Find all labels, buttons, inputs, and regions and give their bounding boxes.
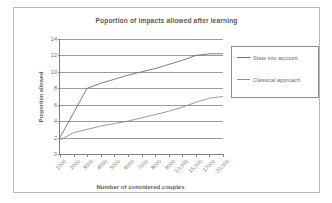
x-tick-label: 1000 [55, 158, 68, 171]
x-tick-mark [196, 154, 197, 157]
x-tick-mark [169, 154, 170, 157]
y-axis-title: Proportion allowed [36, 39, 46, 154]
y-tick-label: 8 [54, 85, 57, 91]
x-tick-label: 8000 [150, 158, 163, 171]
x-tick-label: 10,000 [174, 158, 190, 174]
y-axis-title-label: Proportion allowed [38, 71, 44, 122]
y-tick-label: 10 [51, 69, 57, 75]
series-line-0 [60, 54, 223, 138]
x-tick-label: 3000 [82, 158, 95, 171]
x-tick-mark [142, 154, 143, 157]
legend-label-1: Classical approach [253, 76, 300, 84]
x-tick-mark [155, 154, 156, 157]
x-axis-title: Number of considered couples [59, 184, 222, 190]
plot-area: 02468101214 1000200030004000500060007000… [59, 39, 223, 155]
legend-entry-state-into-account[interactable]: State into account [237, 54, 298, 62]
x-tick-mark [223, 154, 224, 157]
x-tick-label: 7000 [136, 158, 149, 171]
chart-frame: Poportion of impacts allowed after learn… [13, 7, 320, 193]
x-tick-mark [128, 154, 129, 157]
x-tick-mark [209, 154, 210, 157]
x-tick-mark [101, 154, 102, 157]
y-tick-label: 2 [54, 135, 57, 141]
legend-label-0: State into account [253, 54, 298, 62]
chart-title: Poportion of impacts allowed after learn… [14, 17, 319, 24]
x-tick-label: 15,000 [187, 158, 203, 174]
legend-entry-classical-approach[interactable]: Classical approach [237, 76, 300, 84]
y-tick-label: 12 [51, 52, 57, 58]
x-tick-mark [114, 154, 115, 157]
legend-line-icon-0 [237, 57, 250, 58]
x-tick-label: 5000 [109, 158, 122, 171]
legend-line-icon-1 [237, 79, 250, 80]
x-tick-label: 20,000 [214, 158, 230, 174]
y-tick-label: 14 [51, 36, 57, 42]
x-tick-mark [87, 154, 88, 157]
y-tick-label: 4 [54, 118, 57, 124]
series-lines [60, 39, 223, 154]
x-tick-mark [182, 154, 183, 157]
x-tick-label: 2000 [68, 158, 81, 171]
x-tick-mark [74, 154, 75, 157]
y-tick-label: 0 [54, 151, 57, 157]
chart-legend: State into account Classical approach [231, 46, 319, 98]
x-tick-label: 6000 [122, 158, 135, 171]
series-line-1 [60, 97, 223, 141]
x-tick-mark [60, 154, 61, 157]
x-tick-label: 4000 [95, 158, 108, 171]
y-tick-label: 6 [54, 102, 57, 108]
